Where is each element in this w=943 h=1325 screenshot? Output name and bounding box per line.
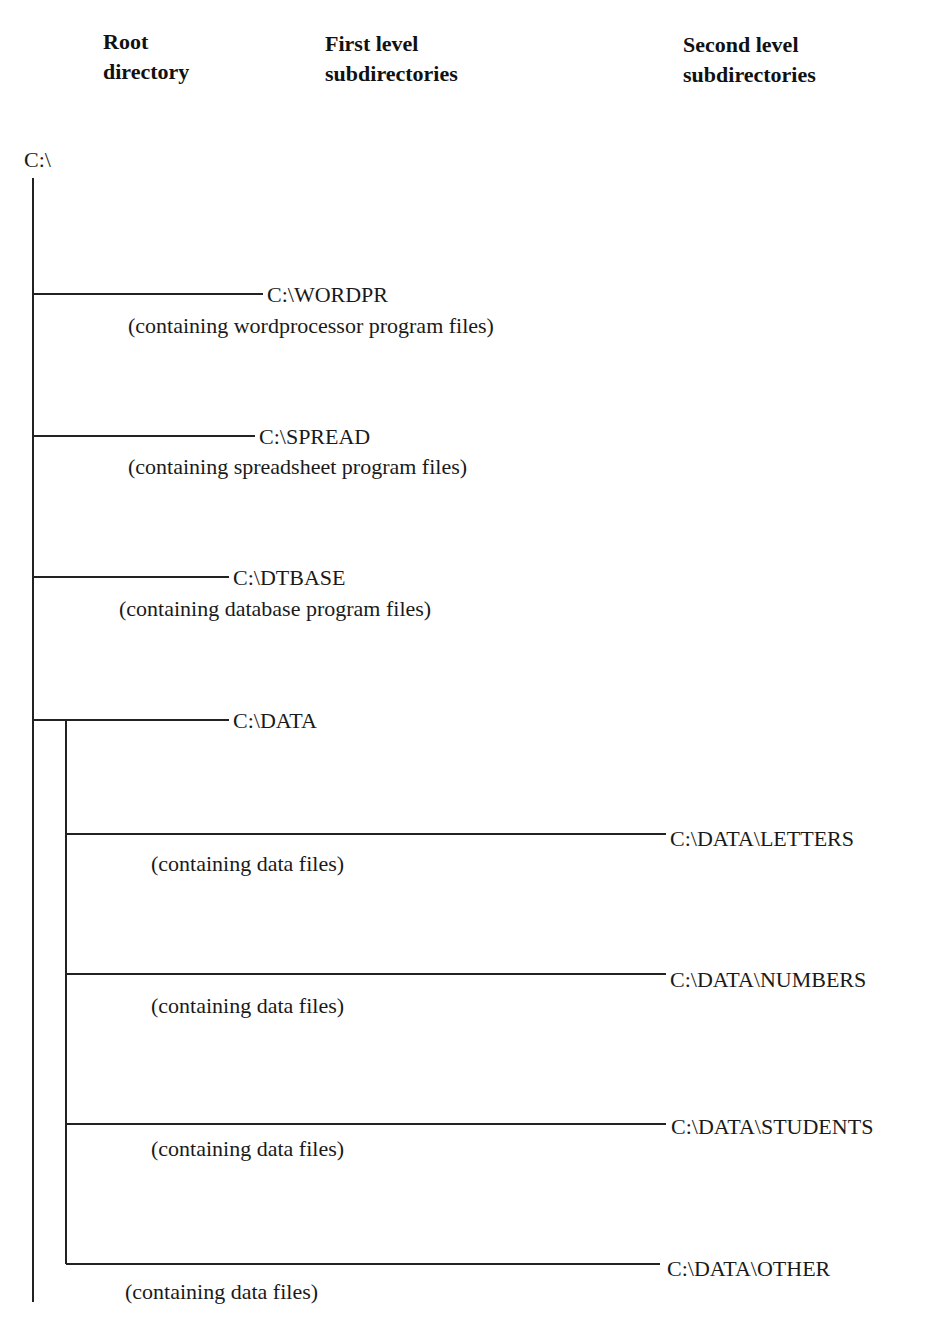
first-level-node-dtbase: C:\DTBASE — [233, 565, 345, 591]
second-level-desc-numbers: (containing data files) — [151, 993, 344, 1019]
branch-line-students — [66, 1123, 666, 1125]
second-level-desc-students: (containing data files) — [151, 1136, 344, 1162]
second-level-node-letters: C:\DATA\LETTERS — [670, 826, 854, 852]
branch-line-numbers — [66, 973, 666, 975]
second-level-node-students: C:\DATA\STUDENTS — [671, 1114, 873, 1140]
header-first-level: First level subdirectories — [325, 29, 458, 89]
root-node: C:\ — [24, 147, 51, 173]
first-level-node-wordpr: C:\WORDPR — [267, 282, 388, 308]
branch-line-spread — [33, 435, 255, 437]
first-level-node-spread: C:\SPREAD — [259, 424, 370, 450]
branch-line-data — [33, 719, 229, 721]
first-level-desc-spread: (containing spreadsheet program files) — [128, 454, 467, 480]
second-level-desc-letters: (containing data files) — [151, 851, 344, 877]
header-second-level: Second level subdirectories — [683, 30, 816, 90]
second-level-desc-other: (containing data files) — [125, 1279, 318, 1305]
header-line: Second level — [683, 30, 816, 60]
header-root-directory: Root directory — [103, 27, 189, 87]
header-line: directory — [103, 57, 189, 87]
first-level-node-data: C:\DATA — [233, 708, 317, 734]
branch-line-other — [66, 1263, 660, 1265]
header-line: subdirectories — [325, 59, 458, 89]
data-subtree-trunk-line — [65, 720, 67, 1264]
root-trunk-line — [32, 178, 34, 1302]
branch-line-dtbase — [33, 576, 229, 578]
header-line: Root — [103, 27, 189, 57]
branch-line-wordpr — [33, 293, 263, 295]
header-line: subdirectories — [683, 60, 816, 90]
second-level-node-numbers: C:\DATA\NUMBERS — [670, 967, 866, 993]
first-level-desc-wordpr: (containing wordprocessor program files) — [128, 313, 494, 339]
second-level-node-other: C:\DATA\OTHER — [667, 1256, 830, 1282]
branch-line-letters — [66, 833, 666, 835]
first-level-desc-dtbase: (containing database program files) — [119, 596, 431, 622]
header-line: First level — [325, 29, 458, 59]
